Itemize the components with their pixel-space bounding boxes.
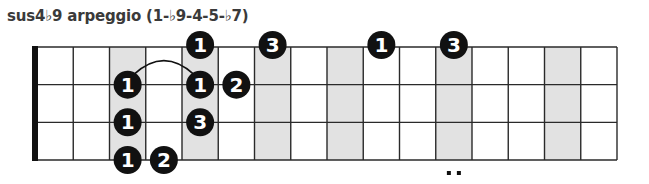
finger-number: 3 bbox=[447, 33, 461, 57]
fret-marker-shade bbox=[110, 47, 146, 160]
finger-number: 1 bbox=[121, 148, 135, 172]
finger-number: 1 bbox=[374, 33, 388, 57]
fret-marker-shade bbox=[182, 47, 218, 160]
finger-number: 1 bbox=[121, 110, 135, 134]
finger-number: 1 bbox=[121, 73, 135, 97]
inlay-dot bbox=[457, 171, 461, 175]
fret-marker-shade bbox=[255, 47, 291, 160]
fret-marker-shade bbox=[327, 47, 363, 160]
fretboard-diagram: 13131121312 bbox=[0, 0, 649, 184]
fret-marker-shade bbox=[436, 47, 472, 160]
fret-marker-shade bbox=[545, 47, 581, 160]
finger-number: 1 bbox=[193, 73, 207, 97]
finger-number: 3 bbox=[193, 110, 207, 134]
finger-number: 2 bbox=[229, 73, 243, 97]
inlay-dot bbox=[447, 171, 451, 175]
finger-number: 2 bbox=[157, 148, 171, 172]
nut bbox=[32, 46, 38, 161]
finger-number: 1 bbox=[193, 33, 207, 57]
finger-number: 3 bbox=[266, 33, 280, 57]
